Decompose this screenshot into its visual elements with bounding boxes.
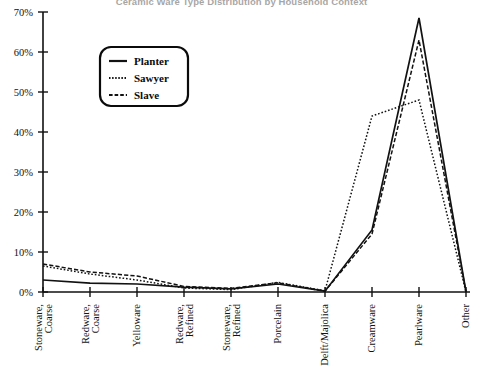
line-chart-canvas: 0%10%20%30%40%50%60%70% Stoneware,Coarse… — [0, 0, 483, 372]
x-axis-tick-label: Redware,Coarse — [80, 304, 101, 344]
x-axis-tick-label: Redware,Refined — [174, 303, 195, 344]
x-axis-tick-label-line: Delft/Majolica — [319, 304, 330, 366]
y-axis: 0%10%20%30%40%50%60%70% — [14, 7, 48, 298]
y-axis-tick-label: 40% — [14, 127, 34, 138]
x-axis-tick-label-line: Coarse — [90, 304, 101, 333]
x-axis: Stoneware,CoarseRedware,CoarseYellowareR… — [33, 287, 472, 366]
y-axis-tick-label: 0% — [19, 287, 33, 298]
x-axis-tick-label: Pearlware — [413, 304, 424, 346]
chart-root: Ceramic Ware Type Distribution by Househ… — [0, 0, 483, 372]
y-axis-tick-label: 10% — [14, 247, 34, 258]
legend-label-planter: Planter — [134, 55, 169, 67]
x-axis-tick-label: Delft/Majolica — [319, 304, 330, 366]
x-axis-tick-label-line: Other — [460, 304, 471, 328]
x-axis-tick-label-line: Yelloware — [131, 304, 142, 347]
y-axis-tick-label: 20% — [14, 207, 34, 218]
x-axis-tick-label-line: Creamware — [366, 304, 377, 353]
x-axis-tick-label: Creamware — [366, 304, 377, 353]
y-axis-tick-label: 60% — [14, 47, 34, 58]
x-axis-tick-label: Other — [460, 304, 471, 328]
y-axis-tick-labels: 0%10%20%30%40%50%60%70% — [14, 7, 34, 298]
x-axis-tick-label: Stoneware,Refined — [221, 303, 242, 351]
x-axis-tick-label: Yelloware — [131, 304, 142, 347]
x-axis-tick-label-line: Refined — [184, 303, 195, 337]
x-axis-tick-label: Porcelain — [272, 303, 283, 343]
x-axis-tick-label: Stoneware,Coarse — [33, 304, 54, 351]
x-axis-tick-label-line: Porcelain — [272, 303, 283, 343]
y-axis-tick-label: 70% — [14, 7, 34, 18]
x-axis-tick-label-line: Refined — [231, 303, 242, 337]
y-axis-tick-label: 30% — [14, 167, 34, 178]
legend-label-sawyer: Sawyer — [134, 72, 169, 84]
legend-label-slave: Slave — [134, 89, 159, 101]
chart-legend: PlanterSawyerSlave — [100, 47, 188, 106]
x-axis-tick-label-line: Pearlware — [413, 304, 424, 346]
y-axis-tick-label: 50% — [14, 87, 34, 98]
x-axis-tick-labels: Stoneware,CoarseRedware,CoarseYellowareR… — [33, 303, 472, 366]
series-line-sawyer — [43, 100, 466, 292]
x-axis-tick-label-line: Coarse — [43, 304, 54, 333]
